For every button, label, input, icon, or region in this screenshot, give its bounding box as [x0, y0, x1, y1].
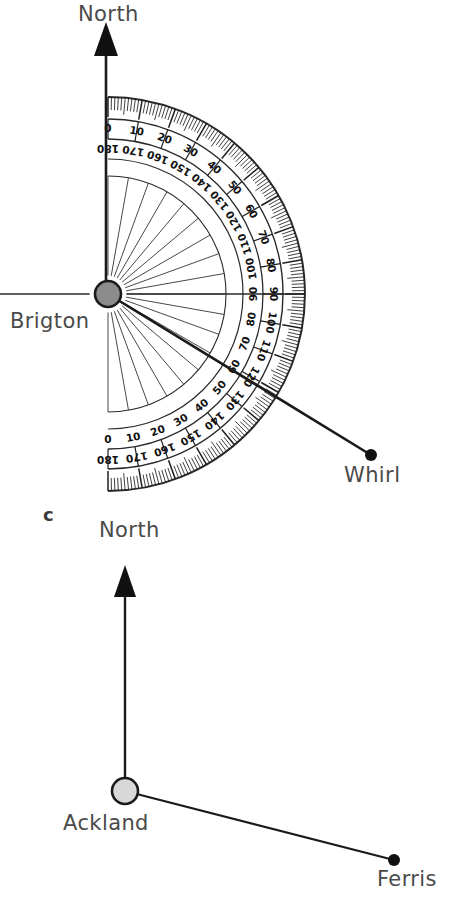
protractor-minor-tick: [137, 99, 139, 112]
protractor-minor-tick: [285, 240, 297, 244]
protractor-minor-tick: [255, 175, 265, 183]
protractor-minor-tick: [221, 139, 229, 149]
protractor-minor-tick: [134, 99, 136, 112]
whirl-label: Whirl: [344, 463, 400, 487]
protractor-minor-tick: [287, 250, 300, 253]
protractor-minor-tick: [208, 448, 215, 459]
protractor-inner-scale-number: 160: [145, 148, 170, 167]
protractor-inner-scale-number: 170: [121, 143, 145, 159]
protractor-minor-tick: [229, 145, 238, 155]
protractor-inner-scale-number: 10: [125, 430, 141, 444]
protractor-minor-tick: [240, 422, 249, 431]
ferris-label: Ferris: [377, 867, 437, 891]
protractor-major-tick: [282, 325, 302, 328]
protractor-minor-tick: [134, 476, 136, 489]
protractor-minor-tick: [291, 316, 304, 318]
protractor-minor-tick: [143, 475, 145, 488]
protractor-inner-scale-number: 0: [104, 433, 111, 445]
protractor-minor-tick: [290, 320, 303, 322]
protractor-minor-tick: [257, 402, 268, 410]
protractor-inner-scale-number: 150: [168, 158, 193, 179]
protractor-minor-tick: [118, 478, 119, 491]
protractor-minor-tick: [287, 310, 304, 311]
protractor-outer-scale-number: 140: [202, 410, 227, 433]
protractor-major-tick: [282, 260, 302, 263]
protractor-minor-tick: [231, 148, 240, 158]
protractor-major-tick: [169, 109, 176, 128]
protractor-outer-scale-number: 180: [97, 454, 119, 466]
protractor-minor-tick: [292, 304, 305, 305]
protractor-minor-tick: [251, 170, 261, 178]
ferris-marker: [388, 854, 400, 866]
protractor-major-tick: [169, 460, 176, 479]
protractor-outer-scale-number: 10: [129, 123, 145, 137]
protractor-minor-tick: [130, 98, 132, 111]
protractor-outer-scale-number: 70: [256, 228, 272, 246]
protractor-minor-tick: [165, 107, 169, 119]
protractor-minor-tick: [289, 329, 302, 331]
protractor-minor-tick: [290, 263, 303, 265]
protractor-minor-tick: [264, 190, 275, 197]
protractor-minor-tick: [184, 115, 191, 130]
protractor-minor-tick: [127, 477, 128, 490]
protractor-minor-tick: [257, 178, 268, 186]
protractor-minor-tick: [243, 419, 253, 428]
protractor-minor-tick: [211, 131, 218, 142]
protractor-inner-scale-number: 100: [243, 257, 259, 281]
protractor-minor-tick: [231, 431, 240, 441]
protractor-minor-tick: [206, 127, 213, 138]
protractor-minor-tick: [291, 313, 304, 314]
protractor-minor-tick: [153, 103, 156, 116]
bearing-line-brigton-whirl: [108, 294, 371, 455]
protractor-inner-scale-number: 180: [97, 143, 119, 155]
protractor-minor-tick: [236, 152, 245, 161]
protractor-outer-scale-number: 130: [224, 388, 247, 413]
protractor-minor-tick: [137, 476, 139, 489]
protractor-minor-tick: [262, 187, 273, 194]
protractor-minor-tick: [162, 106, 166, 118]
figure-canvas: 0102030405060708090100110120130140150160…: [0, 0, 453, 897]
protractor-inner-scale-number: 30: [171, 411, 190, 429]
protractor: 0102030405060708090100110120130140150160…: [0, 97, 305, 491]
protractor-major-tick: [274, 227, 293, 234]
protractor-minor-tick: [127, 98, 128, 111]
protractor-minor-tick: [159, 471, 163, 483]
protractor-minor-tick: [219, 441, 227, 451]
ackland-marker: [112, 778, 138, 804]
protractor-minor-tick: [271, 211, 286, 218]
north-arrow-head-top: [94, 22, 118, 56]
protractor-minor-tick: [287, 246, 300, 249]
protractor-major-tick: [139, 468, 142, 488]
protractor-inner-scale-number: 110: [235, 232, 254, 257]
protractor-minor-tick: [211, 447, 218, 458]
protractor-inner-scale-number: 40: [192, 396, 211, 415]
north-label-top: North: [78, 2, 139, 26]
protractor-minor-tick: [251, 410, 261, 418]
protractor-minor-tick: [290, 267, 303, 269]
protractor-inner-scale-number: 120: [223, 209, 244, 234]
protractor-minor-tick: [247, 165, 257, 174]
protractor-minor-tick: [292, 280, 305, 281]
brigton-marker: [95, 281, 121, 307]
protractor-major-tick: [139, 100, 142, 120]
protractor-minor-tick: [149, 473, 152, 486]
diagram-vector-layer: 0102030405060708090100110120130140150160…: [0, 0, 453, 897]
protractor-minor-tick: [124, 98, 125, 115]
protractor-minor-tick: [165, 469, 169, 481]
protractor-minor-tick: [245, 162, 255, 171]
protractor-outer-scale-number: 20: [156, 130, 174, 146]
protractor-minor-tick: [289, 256, 302, 258]
protractor-minor-tick: [247, 415, 257, 424]
protractor-outer-scale-number: 100: [264, 311, 280, 335]
protractor-minor-tick: [285, 345, 297, 349]
protractor-minor-tick: [287, 335, 300, 338]
protractor-minor-tick: [221, 439, 229, 449]
protractor-minor-tick: [240, 157, 249, 166]
protractor-minor-tick: [283, 351, 295, 355]
bearing-line-ackland-ferris: [125, 791, 394, 860]
protractor-minor-tick: [284, 236, 296, 240]
protractor-minor-tick: [287, 339, 300, 342]
protractor-minor-tick: [146, 101, 149, 114]
protractor-minor-tick: [146, 474, 149, 487]
protractor-minor-tick: [271, 370, 286, 377]
